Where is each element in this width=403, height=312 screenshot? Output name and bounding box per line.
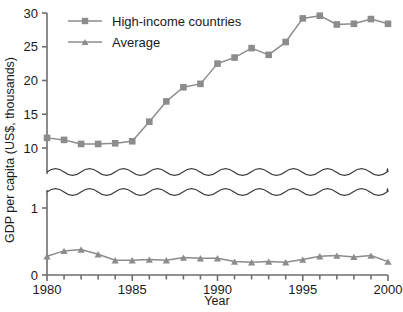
legend-item-label: High-income countries bbox=[112, 14, 242, 29]
data-point-square-marker bbox=[248, 45, 255, 52]
data-point-square-marker bbox=[180, 84, 187, 91]
y-axis-title: GDP per capita (US$, thousands) bbox=[3, 57, 17, 243]
data-point-square-marker bbox=[61, 137, 68, 144]
x-axis-tick-label: 1980 bbox=[33, 282, 62, 297]
data-point-square-marker bbox=[368, 16, 375, 23]
data-point-square-marker bbox=[214, 60, 221, 67]
data-point-square-marker bbox=[231, 54, 238, 61]
data-point-square-marker bbox=[129, 138, 136, 145]
data-point-square-marker bbox=[44, 135, 51, 142]
data-point-square-marker bbox=[78, 141, 85, 148]
legend-swatch-square-icon bbox=[82, 18, 88, 24]
x-axis-tick-label: 1985 bbox=[118, 282, 147, 297]
chart-container: 011015202530 19801985199019952000 High-i… bbox=[0, 0, 403, 312]
data-point-square-marker bbox=[146, 118, 153, 125]
data-point-square-marker bbox=[95, 141, 102, 148]
x-axis-tick-label: 2000 bbox=[374, 282, 403, 297]
data-point-square-marker bbox=[299, 15, 306, 22]
data-point-square-marker bbox=[112, 140, 119, 147]
x-axis-title: Year bbox=[204, 294, 229, 308]
data-point-square-marker bbox=[197, 81, 204, 88]
x-axis-tick-label: 1995 bbox=[288, 282, 317, 297]
y-axis-tick-label: 0 bbox=[31, 268, 38, 283]
data-point-square-marker bbox=[282, 39, 289, 46]
legend-item-label: Average bbox=[112, 35, 160, 50]
y-axis-tick-label: 10 bbox=[24, 141, 38, 156]
data-point-square-marker bbox=[351, 21, 358, 28]
data-point-square-marker bbox=[317, 12, 324, 19]
data-point-square-marker bbox=[334, 21, 341, 28]
chart-background bbox=[0, 0, 403, 312]
data-point-square-marker bbox=[265, 52, 272, 59]
gdp-per-capita-line-chart: 011015202530 19801985199019952000 High-i… bbox=[0, 0, 403, 312]
data-point-square-marker bbox=[385, 21, 392, 28]
y-axis-tick-label: 25 bbox=[24, 39, 38, 54]
data-point-square-marker bbox=[163, 98, 170, 105]
y-axis-tick-label: 15 bbox=[24, 107, 38, 122]
y-axis-tick-label: 20 bbox=[24, 73, 38, 88]
y-axis-tick-label: 30 bbox=[24, 6, 38, 21]
y-axis-tick-label: 1 bbox=[31, 201, 38, 216]
